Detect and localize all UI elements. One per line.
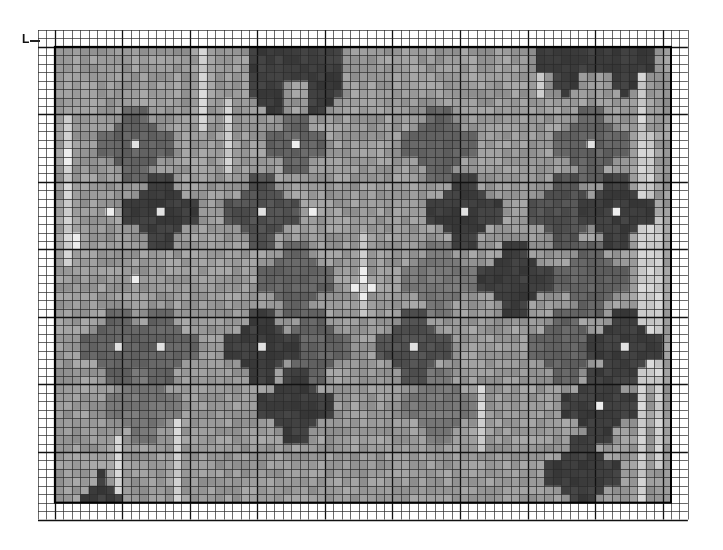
row-marker-tick xyxy=(30,40,40,42)
row-marker-label: L xyxy=(22,33,29,45)
pattern-grid xyxy=(0,0,723,550)
needlepoint-chart: L xyxy=(0,0,723,550)
